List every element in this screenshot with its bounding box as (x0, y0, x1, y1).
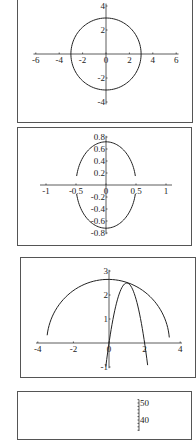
y-tick-label: -0.4 (91, 204, 106, 214)
y-tick-label: 50 (140, 398, 150, 408)
x-tick-label: -2 (70, 344, 78, 354)
x-tick-label: 6 (174, 55, 179, 65)
y-tick-label: 0.2 (94, 168, 105, 178)
x-tick-label: 4 (151, 55, 156, 65)
y-tick-label: 4 (101, 1, 106, 11)
x-tick-label: 4 (178, 344, 183, 354)
y-tick-label: -0.8 (91, 228, 106, 238)
x-tick-label: 1 (164, 186, 169, 196)
x-tick-label: -1 (42, 186, 50, 196)
x-tick-label: -4 (34, 344, 42, 354)
y-tick-label: 2 (104, 290, 109, 300)
x-tick-label: -2 (79, 55, 87, 65)
y-tick-label: -2 (98, 73, 106, 83)
chart-partial: 5040 (138, 398, 150, 431)
chart-arc-parabola: -4-2024321-1 (34, 266, 183, 372)
curve (47, 279, 169, 337)
x-tick-label: 2 (127, 55, 132, 65)
y-tick-label: 2 (101, 25, 106, 35)
y-tick-label: -0.6 (91, 216, 106, 226)
y-tick-label: -1 (101, 362, 109, 372)
chart-circle: -6-4-2024642-2-4 (32, 1, 179, 107)
y-tick-label: -0.2 (91, 192, 105, 202)
curve (106, 283, 148, 367)
y-tick-label: 40 (140, 415, 150, 425)
y-tick-label: -4 (98, 97, 106, 107)
y-tick-label: 0.4 (94, 156, 106, 166)
y-tick-label: 3 (104, 266, 109, 276)
y-tick-label: 0.6 (94, 144, 106, 154)
chart-ellipse: -1-0.500.510.80.60.40.2-0.2-0.4-0.6-0.8 (40, 132, 172, 238)
x-tick-label: -4 (55, 55, 63, 65)
y-tick-label: 1 (104, 314, 109, 324)
y-tick-label: 0.8 (94, 132, 106, 142)
x-tick-label: 0.5 (130, 186, 142, 196)
x-tick-label: -6 (32, 55, 40, 65)
